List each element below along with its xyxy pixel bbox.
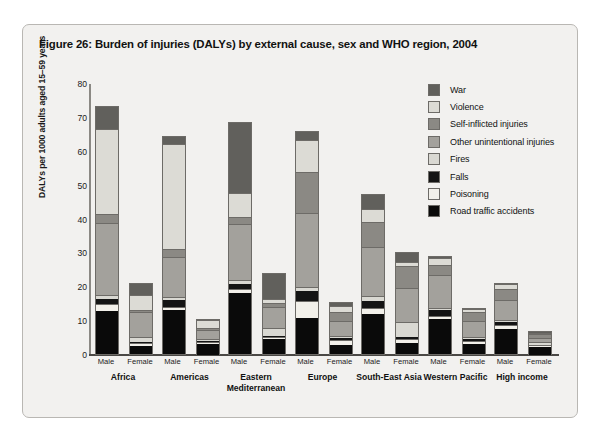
legend-item[interactable]: Self-inflicted injuries <box>428 116 578 133</box>
stacked-bar[interactable] <box>129 283 153 355</box>
legend-swatch-icon <box>428 136 440 148</box>
bar-segment <box>96 304 118 311</box>
legend-item[interactable]: Other unintentional injuries <box>428 133 578 150</box>
bar-segment <box>197 344 219 355</box>
legend-item[interactable]: Road traffic accidents <box>428 203 578 220</box>
legend-swatch-icon <box>428 153 440 165</box>
legend-item[interactable]: Falls <box>428 168 578 185</box>
bar-segment <box>296 301 318 318</box>
stacked-bar[interactable] <box>228 122 252 355</box>
chart-legend: WarViolenceSelf-inflicted injuriesOther … <box>428 81 578 220</box>
legend-item[interactable]: War <box>428 81 578 98</box>
stacked-bar[interactable] <box>95 106 119 355</box>
figure-title: Figure 26: Burden of injuries (DALYs) by… <box>39 38 477 50</box>
sex-label-female: Female <box>522 357 556 366</box>
sex-label-male: Male <box>422 357 456 366</box>
bar-segment <box>396 266 418 289</box>
stacked-bar[interactable] <box>494 283 518 355</box>
bar-segment <box>429 319 451 354</box>
bar-segment <box>396 288 418 324</box>
bar-segment <box>163 310 185 354</box>
y-axis-tick-label: 50 <box>61 181 87 191</box>
stacked-bar[interactable] <box>262 273 286 355</box>
sex-label-female: Female <box>389 357 423 366</box>
legend-swatch-icon <box>428 171 440 183</box>
sex-tick-labels: MaleFemaleMaleFemaleMaleFemaleMaleFemale… <box>91 357 559 371</box>
stacked-bar[interactable] <box>162 136 186 355</box>
legend-label: Fires <box>450 154 470 164</box>
stacked-bar[interactable] <box>528 331 552 355</box>
bar-segment <box>296 172 318 214</box>
bar-segment <box>96 223 118 297</box>
bar-segment <box>463 344 485 355</box>
bar-segment <box>362 222 384 248</box>
stacked-bar[interactable] <box>428 256 452 355</box>
sex-label-male: Male <box>289 357 323 366</box>
bar-segment <box>362 314 384 354</box>
sex-label-male: Male <box>222 357 256 366</box>
bar-segment <box>96 311 118 354</box>
bar-segment <box>495 300 517 321</box>
sex-label-female: Female <box>323 357 357 366</box>
legend-label: Violence <box>450 102 484 112</box>
legend-swatch-icon <box>428 205 440 217</box>
bar-segment <box>229 193 251 218</box>
legend-label: Poisoning <box>450 189 489 199</box>
legend-label: Road traffic accidents <box>450 206 534 216</box>
legend-swatch-icon <box>428 101 440 113</box>
sex-label-female: Female <box>190 357 224 366</box>
bar-segment <box>429 275 451 309</box>
stacked-bar[interactable] <box>295 131 319 355</box>
bar-segment <box>396 343 418 354</box>
bar-segment <box>130 295 152 311</box>
bar-segment <box>362 209 384 223</box>
y-axis-tick-label: 80 <box>61 79 87 89</box>
stacked-bar[interactable] <box>196 319 220 355</box>
bar-segment <box>296 318 318 354</box>
legend-label: War <box>450 85 466 95</box>
bar-segment <box>296 140 318 173</box>
legend-item[interactable]: Violence <box>428 98 578 115</box>
y-axis-title: DALYs per 1000 adults aged 15–59 years <box>37 36 47 198</box>
y-axis-tick-label: 0 <box>61 350 87 360</box>
sex-label-female: Female <box>256 357 290 366</box>
y-axis-tick-label: 40 <box>61 215 87 225</box>
bar-segment <box>130 346 152 354</box>
bar-segment <box>263 307 285 329</box>
sex-label-male: Male <box>89 357 123 366</box>
sex-label-female: Female <box>456 357 490 366</box>
bar-segment <box>130 312 152 337</box>
bar-segment <box>463 321 485 337</box>
bar-segment <box>330 345 352 354</box>
bar-segment <box>330 321 352 337</box>
legend-item[interactable]: Fires <box>428 151 578 168</box>
bar-segment <box>229 293 251 354</box>
y-axis-tick-label: 30 <box>61 248 87 258</box>
stacked-bar[interactable] <box>329 302 353 355</box>
sex-label-male: Male <box>355 357 389 366</box>
y-axis-tick-label: 70 <box>61 113 87 123</box>
region-label: High income <box>480 372 564 383</box>
legend-label: Other unintentional injuries <box>450 137 554 147</box>
bar-segment <box>263 339 285 354</box>
y-axis-tick-label: 60 <box>61 147 87 157</box>
stacked-bar[interactable] <box>395 252 419 355</box>
bar-segment <box>263 273 285 299</box>
bar-segment <box>263 328 285 336</box>
page-margin <box>0 0 603 22</box>
bar-segment <box>96 129 118 215</box>
sex-label-male: Male <box>156 357 190 366</box>
bar-segment <box>396 322 418 337</box>
legend-swatch-icon <box>428 188 440 200</box>
stacked-bar[interactable] <box>361 194 385 355</box>
figure-panel: Figure 26: Burden of injuries (DALYs) by… <box>22 24 578 418</box>
y-axis-tick-label: 10 <box>61 316 87 326</box>
legend-swatch-icon <box>428 84 440 96</box>
region-tick-labels: AfricaAmericasEastern MediterraneanEurop… <box>91 372 559 412</box>
stacked-bar[interactable] <box>462 308 486 355</box>
bar-segment <box>163 144 185 250</box>
bar-segment <box>362 194 384 210</box>
legend-swatch-icon <box>428 118 440 130</box>
bar-segment <box>229 122 251 194</box>
legend-item[interactable]: Poisoning <box>428 185 578 202</box>
